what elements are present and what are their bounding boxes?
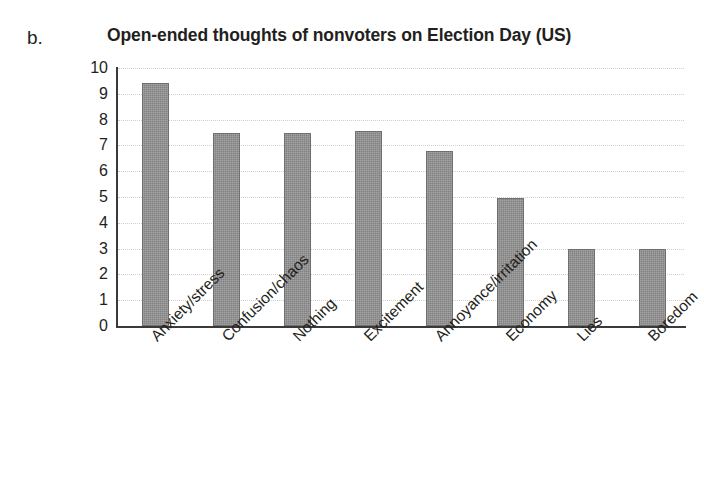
gridline (118, 171, 684, 172)
y-axis-tick-label: 5 (80, 189, 108, 205)
y-axis-tick-label: 9 (80, 86, 108, 102)
gridline (118, 94, 684, 95)
chart-figure: b. Open-ended thoughts of nonvoters on E… (0, 0, 704, 495)
panel-label: b. (27, 28, 43, 47)
gridline (118, 120, 684, 121)
y-axis-tick-label: 3 (80, 241, 108, 257)
y-axis-tick-label: 2 (80, 266, 108, 282)
bar (426, 151, 453, 326)
gridline (118, 223, 684, 224)
bar (213, 133, 240, 327)
y-axis-tick-label: 0 (80, 318, 108, 334)
plot-area: 109876543210 Anxiety/stressConfusion/cha… (116, 67, 686, 327)
gridline (118, 145, 684, 146)
y-axis-tick-label: 6 (80, 163, 108, 179)
y-axis-tick-label: 8 (80, 112, 108, 128)
bar (284, 133, 311, 327)
y-axis-line (116, 67, 118, 327)
y-axis-tick-label: 1 (80, 292, 108, 308)
y-axis-tick-label: 4 (80, 215, 108, 231)
gridline (118, 249, 684, 250)
bar (355, 131, 382, 326)
bar (142, 83, 169, 326)
gridline (118, 197, 684, 198)
y-axis-tick-label: 10 (80, 60, 108, 76)
gridline (118, 68, 684, 69)
y-axis-tick-label: 7 (80, 137, 108, 153)
chart-title: Open-ended thoughts of nonvoters on Elec… (107, 26, 571, 44)
